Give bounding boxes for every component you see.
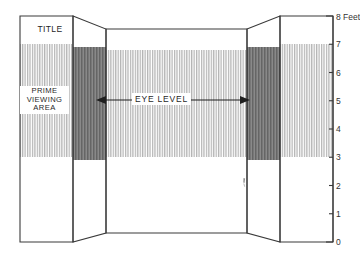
prime-viewing-area-label: PRIME VIEWING AREA	[20, 86, 69, 114]
eye-level-label: EYE LEVEL	[132, 93, 191, 105]
title-panel-label: TITLE	[27, 24, 73, 34]
prime-viewing-line-3: AREA	[21, 104, 68, 113]
